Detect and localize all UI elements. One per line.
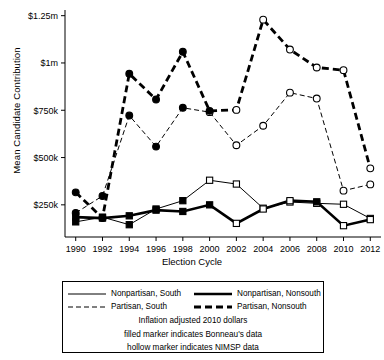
data-point-marker	[233, 220, 239, 226]
data-point-marker	[153, 143, 160, 150]
data-point-marker	[153, 96, 160, 103]
data-point-marker	[340, 67, 347, 74]
x-axis-label: Election Cycle	[0, 256, 384, 267]
x-tick-label: 1996	[146, 244, 166, 254]
legend-label: Nonpartisan, Nonsouth	[237, 289, 321, 298]
data-point-marker	[314, 199, 320, 205]
data-point-marker	[287, 198, 293, 204]
data-point-marker	[340, 201, 346, 207]
x-tick-label: 2002	[226, 244, 246, 254]
data-point-marker	[153, 207, 159, 213]
legend-swatch-thin-solid	[67, 289, 107, 299]
x-tick-label: 2004	[253, 244, 273, 254]
x-tick-label: 2012	[360, 244, 380, 254]
data-point-marker	[313, 64, 320, 71]
legend-item-nonpartisan-nonsouth: Nonpartisan, Nonsouth	[193, 287, 319, 300]
x-tick-label: 2000	[200, 244, 220, 254]
x-tick-label: 1994	[119, 244, 139, 254]
x-tick-label: 2006	[280, 244, 300, 254]
data-point-marker	[367, 165, 374, 172]
series-line	[76, 20, 371, 218]
x-tick-label: 1990	[66, 244, 86, 254]
legend-note-line-3: hollow marker indicates NIMSP data	[63, 343, 323, 354]
x-tick-label: 1998	[173, 244, 193, 254]
legend-item-partisan-south: Partisan, South	[67, 300, 193, 313]
data-point-marker	[72, 210, 79, 217]
data-point-marker	[126, 70, 133, 77]
y-tick-label: $750k	[33, 106, 58, 116]
data-point-marker	[126, 222, 132, 228]
data-point-marker	[287, 46, 294, 53]
x-tick-label: 2008	[307, 244, 327, 254]
data-point-marker	[207, 202, 213, 208]
data-point-marker	[367, 216, 373, 222]
data-point-marker	[179, 104, 186, 111]
y-tick-label: $500k	[33, 153, 58, 163]
plot-area: $250k$500k$750k$1m$1.25m1990199219941996…	[0, 0, 384, 268]
data-point-marker	[287, 89, 294, 96]
data-point-marker	[180, 198, 186, 204]
data-point-marker	[340, 187, 347, 194]
chart-canvas: $250k$500k$750k$1m$1.25m1990199219941996…	[0, 0, 384, 268]
x-tick-label: 2010	[333, 244, 353, 254]
legend-note-line-2: filled marker indicates Bonneau's data	[63, 330, 323, 341]
y-tick-label: $250k	[33, 200, 58, 210]
data-point-marker	[126, 213, 132, 219]
legend-label: Partisan, South	[111, 302, 167, 311]
data-point-marker	[72, 189, 79, 196]
legend-entries: Nonpartisan, South Nonpartisan, Nonsouth…	[63, 282, 323, 313]
x-tick-label: 1992	[92, 244, 112, 254]
legend-note-line-1: Inflation adjusted 2010 dollars	[63, 316, 323, 327]
data-point-marker	[367, 181, 374, 188]
legend-swatch-thin-dashed	[67, 302, 107, 312]
data-point-marker	[260, 122, 267, 129]
legend-label: Partisan, Nonsouth	[237, 302, 307, 311]
data-point-marker	[233, 142, 240, 149]
data-point-marker	[99, 193, 106, 200]
data-point-marker	[126, 112, 133, 119]
data-point-marker	[207, 177, 213, 183]
data-point-marker	[179, 48, 186, 55]
y-tick-label: $1m	[40, 58, 58, 68]
data-point-marker	[340, 223, 346, 229]
chart-legend: Nonpartisan, South Nonpartisan, Nonsouth…	[62, 281, 324, 353]
data-point-marker	[206, 107, 213, 114]
series-line	[76, 180, 371, 224]
y-tick-label: $1.25m	[28, 11, 58, 21]
y-axis-label: Mean Candidate Contribution	[11, 21, 22, 201]
legend-label: Nonpartisan, South	[111, 289, 181, 298]
data-point-marker	[233, 181, 239, 187]
data-point-marker	[260, 206, 266, 212]
data-point-marker	[180, 208, 186, 214]
legend-item-nonpartisan-south: Nonpartisan, South	[67, 287, 193, 300]
legend-item-partisan-nonsouth: Partisan, Nonsouth	[193, 300, 319, 313]
legend-swatch-thick-dashed	[193, 302, 233, 312]
data-point-marker	[99, 215, 106, 222]
data-point-marker	[313, 95, 320, 102]
chart-figure: $250k$500k$750k$1m$1.25m1990199219941996…	[0, 0, 384, 360]
data-point-marker	[260, 16, 267, 23]
data-point-marker	[233, 106, 240, 113]
legend-swatch-thick-solid	[193, 289, 233, 299]
